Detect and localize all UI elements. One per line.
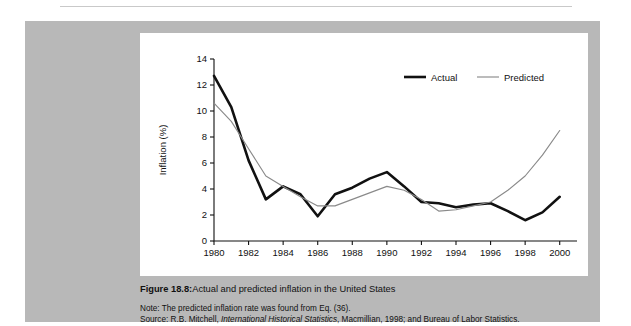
chart-plot-area: 02468101214 1980198219841986198819901992… xyxy=(140,33,588,276)
inflation-line-chart: 02468101214 1980198219841986198819901992… xyxy=(140,33,588,276)
y-tick-label: 14 xyxy=(196,53,207,64)
chart-series-group xyxy=(214,76,560,220)
x-tick-label: 1994 xyxy=(445,247,466,258)
figure-caption-text: Actual and predicted inflation in the Un… xyxy=(192,284,395,294)
x-tick-label: 1980 xyxy=(203,247,224,258)
note-text: The predicted inflation rate was found f… xyxy=(160,304,351,313)
y-axis-tick-labels: 02468101214 xyxy=(196,53,207,246)
series-line-predicted xyxy=(214,103,560,211)
x-axis-tick-labels: 1980198219841986198819901992199419961998… xyxy=(203,247,570,258)
y-axis-title: Inflation (%) xyxy=(157,125,168,176)
figure-label: Figure 18.8: xyxy=(140,284,192,294)
y-tick-label: 2 xyxy=(202,209,207,220)
x-tick-label: 1986 xyxy=(307,247,328,258)
y-tick-label: 4 xyxy=(202,183,207,194)
y-tick-label: 0 xyxy=(202,235,207,246)
x-tick-label: 1996 xyxy=(480,247,501,258)
y-tick-label: 10 xyxy=(196,105,207,116)
x-tick-label: 1988 xyxy=(342,247,363,258)
figure-note: Note: The predicted inflation rate was f… xyxy=(140,303,610,315)
x-tick-label: 1982 xyxy=(238,247,259,258)
figure-source: Source: R.B. Mitchell, International His… xyxy=(140,314,610,326)
figure-panel: 02468101214 1980198219841986198819901992… xyxy=(25,21,600,322)
x-tick-label: 2000 xyxy=(549,247,570,258)
legend-label-predicted: Predicted xyxy=(504,72,544,83)
x-tick-label: 1990 xyxy=(376,247,397,258)
source-prefix: Source: xyxy=(140,315,168,324)
source-text-part2: , Macmillian, 1998; and Bureau of Labor … xyxy=(337,315,520,324)
series-line-actual xyxy=(214,76,560,220)
x-tick-label: 1992 xyxy=(411,247,432,258)
chart-legend: ActualPredicted xyxy=(404,72,544,83)
x-tick-label: 1984 xyxy=(273,247,294,258)
note-prefix: Note: xyxy=(140,304,160,313)
x-tick-label: 1998 xyxy=(515,247,536,258)
source-text-part1: R.B. Mitchell, xyxy=(168,315,221,324)
page-top-rule xyxy=(60,6,572,7)
source-publication-title: International Historical Statistics xyxy=(221,315,337,324)
y-tick-label: 6 xyxy=(202,157,207,168)
legend-label-actual: Actual xyxy=(431,72,457,83)
figure-caption-block: Figure 18.8:Actual and predicted inflati… xyxy=(140,283,610,326)
figure-caption: Figure 18.8:Actual and predicted inflati… xyxy=(140,283,610,296)
chart-card: 02468101214 1980198219841986198819901992… xyxy=(140,33,588,276)
y-tick-label: 12 xyxy=(196,79,207,90)
y-tick-label: 8 xyxy=(202,131,207,142)
